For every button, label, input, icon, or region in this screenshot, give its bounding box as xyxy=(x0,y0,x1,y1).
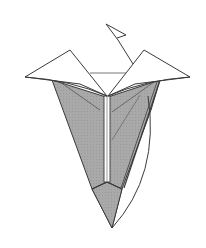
center-strip xyxy=(104,96,110,182)
origami-diagram xyxy=(0,0,206,248)
hook-head xyxy=(106,24,133,64)
origami-figure xyxy=(0,0,206,248)
